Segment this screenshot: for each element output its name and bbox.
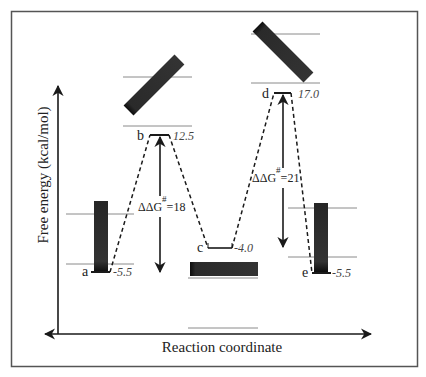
state-e: e -5.5 bbox=[288, 203, 357, 280]
barrier-arrow-2: ΔΔG#=21 bbox=[252, 95, 299, 247]
state-a: a -5.5 bbox=[66, 201, 134, 279]
molecule-bar-tilted bbox=[253, 22, 314, 83]
state-b: b 12.5 bbox=[123, 55, 194, 143]
state-label: c bbox=[197, 240, 203, 255]
molecule-bar-vertical bbox=[94, 201, 108, 272]
molecule-bar-horizontal bbox=[190, 262, 258, 276]
energy-diagram: Free energy (kcal/mol) Reaction coordina… bbox=[0, 0, 426, 377]
barrier-label: ΔΔG#=18 bbox=[138, 194, 185, 214]
molecule-bar-vertical bbox=[314, 203, 328, 272]
state-energy: 12.5 bbox=[173, 129, 194, 143]
state-label: d bbox=[262, 86, 269, 101]
figure-frame bbox=[12, 12, 418, 367]
path-b-to-c bbox=[169, 135, 208, 248]
y-axis-label: Free energy (kcal/mol) bbox=[35, 106, 52, 243]
state-label: e bbox=[302, 265, 308, 280]
state-energy: -4.0 bbox=[234, 241, 253, 255]
state-energy: -5.5 bbox=[113, 265, 132, 279]
barrier-arrow-1: ΔΔG#=18 bbox=[138, 137, 185, 272]
state-energy: 17.0 bbox=[298, 87, 319, 101]
x-axis-label: Reaction coordinate bbox=[162, 339, 283, 355]
state-label: b bbox=[137, 128, 144, 143]
barrier-label: ΔΔG#=21 bbox=[252, 165, 299, 185]
state-label: a bbox=[82, 264, 89, 279]
molecule-bar-tilted bbox=[124, 55, 185, 116]
state-d: d 17.0 bbox=[251, 22, 320, 101]
state-c: c -4.0 bbox=[188, 240, 258, 328]
state-energy: -5.5 bbox=[332, 266, 351, 280]
